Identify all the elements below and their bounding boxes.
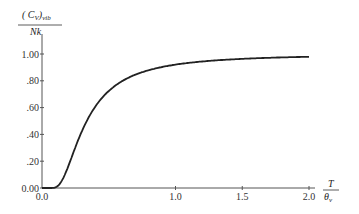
y-tick-label: .40 <box>27 129 40 140</box>
x-label-denominator: θv <box>324 191 333 204</box>
y-tick-label: .80 <box>27 75 40 86</box>
x-tick-label: 1.0 <box>169 191 182 202</box>
x-tick-label: 1.5 <box>236 191 249 202</box>
data-line <box>42 57 309 188</box>
chart: 0.00.20.40.60.801.00 0.01.01.52.0 ( CV)v… <box>0 0 359 214</box>
y-tick-label: 1.00 <box>22 49 40 60</box>
x-tick-label: 2.0 <box>303 191 316 202</box>
y-tick-label: .60 <box>27 102 40 113</box>
x-label-numerator: T <box>328 178 335 189</box>
y-ticks: 0.00.20.40.60.801.00 <box>22 49 45 194</box>
x-axis-label: T θv <box>323 178 339 204</box>
y-tick-label: .20 <box>27 156 40 167</box>
y-label-numerator: ( CV)vib <box>22 9 51 22</box>
x-tick-label: 0.0 <box>36 191 49 202</box>
y-label-denominator: Nk <box>29 26 42 37</box>
y-axis-label: ( CV)vib Nk <box>18 9 62 37</box>
